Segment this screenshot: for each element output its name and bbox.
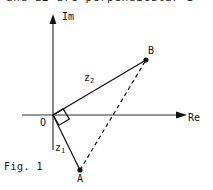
real-axis-label: Re (188, 113, 200, 123)
vector-z2-line (53, 60, 146, 115)
point-b-label: B (148, 46, 154, 56)
imaginary-axis-label: Im (62, 12, 74, 22)
origin-label: O (40, 118, 46, 128)
vector-z1-label-subscript: 1 (61, 147, 65, 155)
point-a-label: A (77, 174, 83, 184)
figure-container: and z2 are perpendicular i Im Re O B A z… (0, 0, 213, 190)
vector-z2-label: z2 (84, 73, 94, 85)
point-a-marker (77, 167, 82, 172)
vector-z1-label: z1 (55, 143, 65, 155)
point-b-marker (143, 57, 148, 62)
right-angle-marker (53, 109, 69, 125)
real-axis-arrowhead (176, 111, 187, 118)
figure-caption: Fig. 1 (4, 162, 43, 172)
imaginary-axis-arrowhead (50, 14, 57, 24)
vector-z2-label-subscript: 2 (90, 77, 94, 85)
